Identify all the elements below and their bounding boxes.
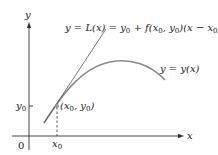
- origin-label-text: 0: [18, 140, 24, 151]
- y-axis-label: y: [25, 10, 31, 20]
- curve-label-text: y = y(x): [160, 63, 199, 74]
- diagram-canvas: y x 0 x0 y0 (x0, y0) y = L(x) = y0 + f(x…: [0, 0, 218, 155]
- x-axis-label: x: [187, 131, 193, 141]
- point-label-close: ): [91, 100, 95, 111]
- y0-label: y0: [16, 101, 26, 113]
- point-x0-y0: [55, 104, 59, 108]
- y0-label-sub: 0: [22, 105, 26, 113]
- y-axis-arrow-icon: [27, 22, 31, 28]
- tangent-line-label: y = L(x) = y0 + f(x0, y0)(x − x0): [65, 23, 218, 35]
- point-label: (x0, y0): [60, 101, 94, 113]
- curve-label: y = y(x): [160, 64, 199, 74]
- point-label-open: (x: [60, 100, 70, 111]
- tangent-label-part3: , y: [163, 22, 175, 33]
- x-axis-label-text: x: [187, 130, 193, 141]
- point-label-mid: , y: [74, 100, 86, 111]
- x-axis-arrow-icon: [178, 134, 184, 138]
- tangent-label-part1: y = L(x) = y: [65, 22, 126, 33]
- tangent-label-part2: + f(x: [130, 22, 158, 33]
- origin-label: 0: [18, 141, 24, 151]
- x0-label: x0: [52, 139, 62, 151]
- tangent-label-part4: )(x − x: [179, 22, 213, 33]
- solution-curve: [44, 61, 165, 123]
- x0-label-sub: 0: [58, 143, 62, 151]
- y-axis-label-text: y: [25, 9, 31, 20]
